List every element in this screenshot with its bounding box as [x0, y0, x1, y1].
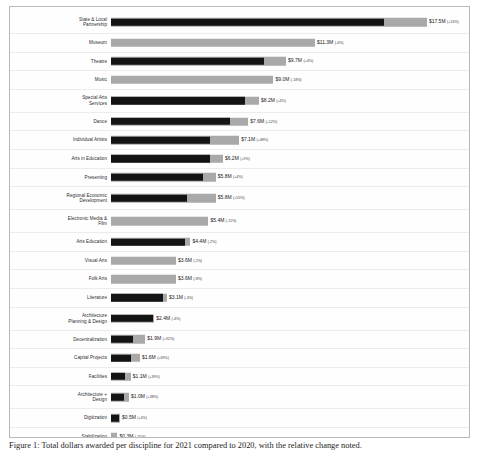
- bar-overlay: [111, 58, 264, 65]
- bar-group: [111, 173, 216, 182]
- bar-overlay: [111, 195, 187, 202]
- bar-value-label: $5.8M (+55%): [218, 195, 245, 201]
- bar-chart-plot: State & Local Partnership$17.5M (+14%)Mu…: [10, 11, 469, 435]
- category-label: Visual Arts: [10, 258, 111, 263]
- category-label: Presenting: [10, 175, 111, 180]
- category-label: Architecture Planning & Design: [10, 313, 111, 324]
- bar-value-percent: (+48%): [256, 138, 268, 142]
- bar-row: Digitization$0.5M (+4%): [10, 409, 469, 428]
- bar-value-label: $0.5M (+4%): [122, 415, 147, 421]
- bar-zone: $3.1M (-4%): [111, 289, 469, 307]
- bar-value-percent: (+4%): [233, 175, 243, 179]
- bar-zone: $1.0M (+38%): [111, 386, 469, 408]
- bar-group: [111, 136, 239, 145]
- category-label: Capital Projects: [10, 355, 111, 360]
- bar-value-percent: (-11%): [226, 219, 237, 223]
- bar-value-label: $5.4M (-11%): [210, 218, 236, 224]
- bar-row: Literature$3.1M (-4%): [10, 289, 469, 308]
- bar-value-amount: $9.0M: [275, 76, 289, 82]
- bar-zone: $9.7M (+4%): [111, 53, 469, 71]
- bar-value-percent: (-4%): [184, 296, 193, 300]
- bar-overlay: [111, 373, 125, 380]
- bar-zone: $5.8M (+4%): [111, 169, 469, 187]
- bar-row: Arts in Education$6.2M (+9%): [10, 150, 469, 169]
- bar-zone: $0.3M (-25%): [111, 428, 469, 438]
- bar-group: [111, 238, 190, 247]
- bar-value-amount: $4.4M: [192, 238, 206, 244]
- bar-value-label: $4.4M (-2%): [192, 239, 216, 245]
- category-label: Theatre: [10, 59, 111, 64]
- category-label: Arts Education: [10, 239, 111, 244]
- bar-value-label: $7.1M (+48%): [241, 137, 268, 143]
- category-label: Individual Artists: [10, 137, 111, 142]
- bar-value-percent: (+55%): [233, 196, 245, 200]
- category-label: Special Arts Services: [10, 95, 111, 106]
- bar-row: Arts Education$4.4M (-2%): [10, 233, 469, 252]
- bar-row: Presenting$5.8M (+4%): [10, 169, 469, 188]
- bar-group: [111, 97, 259, 106]
- bar-zone: $17.5M (+14%): [111, 11, 469, 33]
- bar-value-amount: $5.8M: [218, 194, 232, 200]
- bar-overlay: [111, 118, 230, 125]
- bar-base: [111, 39, 315, 48]
- bar-value-percent: (+92%): [163, 337, 175, 341]
- bar-group: [111, 256, 176, 265]
- category-label: Digitization: [10, 415, 111, 420]
- bar-value-percent: (+12%): [265, 120, 277, 124]
- bar-value-amount: $0.3M: [119, 433, 133, 438]
- bar-value-percent: (-8%): [193, 277, 202, 281]
- bar-value-amount: $8.2M: [261, 97, 275, 103]
- bar-value-percent: (-4%): [172, 317, 181, 321]
- bar-zone: $5.8M (+55%): [111, 187, 469, 209]
- bar-row: Theatre$9.7M (+4%): [10, 53, 469, 72]
- bar-base: [111, 217, 208, 226]
- bar-row: Architecture + Design$1.0M (+38%): [10, 386, 469, 409]
- bar-value-amount: $3.1M: [169, 294, 183, 300]
- bar-value-amount: $6.2M: [225, 155, 239, 161]
- bar-value-label: $9.0M (-18%): [275, 77, 301, 83]
- bar-row: Capital Projects$1.6M (+69%): [10, 349, 469, 368]
- bar-group: [111, 155, 223, 164]
- bar-group: [111, 393, 129, 402]
- bar-value-percent: (+69%): [157, 356, 169, 360]
- bar-base: [111, 76, 273, 85]
- bar-overlay: [111, 238, 185, 245]
- category-label: Arts in Education: [10, 156, 111, 161]
- bar-group: [111, 194, 216, 203]
- bar-value-label: $1.1M (+39%): [133, 374, 160, 380]
- bar-zone: $0.5M (+4%): [111, 409, 469, 427]
- bar-value-percent: (+4%): [303, 59, 313, 63]
- bar-group: [111, 314, 154, 323]
- bar-group: [111, 293, 167, 302]
- bar-zone: $4.4M (-2%): [111, 233, 469, 251]
- bar-value-label: $0.3M (-25%): [119, 434, 145, 438]
- category-label: Museum: [10, 40, 111, 45]
- bar-value-label: $2.4M (-4%): [156, 316, 180, 322]
- bar-overlay: [111, 354, 131, 361]
- bar-zone: $1.6M (+69%): [111, 349, 469, 367]
- bar-value-label: $9.7M (+4%): [288, 58, 313, 64]
- bar-overlay: [111, 394, 124, 401]
- bar-group: [111, 76, 273, 85]
- bar-value-amount: $1.9M: [147, 335, 161, 341]
- bar-value-amount: $17.5M: [429, 18, 446, 24]
- bar-value-percent: (-18%): [291, 78, 302, 82]
- category-label: Dance: [10, 119, 111, 124]
- bar-group: [111, 414, 120, 423]
- bar-group: [111, 335, 145, 344]
- bar-zone: $5.4M (-11%): [111, 210, 469, 232]
- bar-row: Electronic Media & Film$5.4M (-11%): [10, 210, 469, 233]
- bar-overlay: [111, 97, 245, 104]
- bar-zone: $3.6M (-8%): [111, 270, 469, 288]
- bar-overlay: [111, 137, 210, 144]
- category-label: Electronic Media & Film: [10, 216, 111, 227]
- bar-row: Decentralization$1.9M (+92%): [10, 331, 469, 350]
- bar-zone: $11.3M (-4%): [111, 34, 469, 52]
- bar-zone: $7.6M (+12%): [111, 113, 469, 131]
- bar-value-amount: $11.3M: [317, 39, 333, 45]
- bar-value-amount: $5.8M: [218, 173, 232, 179]
- category-label: Literature: [10, 295, 111, 300]
- bar-value-amount: $1.0M: [131, 393, 145, 399]
- bar-value-amount: $7.6M: [250, 118, 264, 124]
- bar-value-amount: $0.5M: [122, 414, 136, 420]
